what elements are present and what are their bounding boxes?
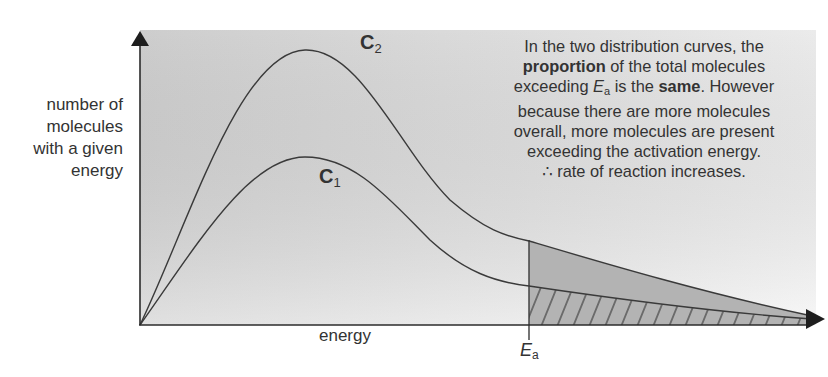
explanation-note: In the two distribution curves, the prop… [458, 36, 828, 181]
diagram: number of molecules with a given energy … [0, 0, 828, 377]
y-label-line: with a given [0, 138, 123, 160]
c2-main: C [360, 31, 374, 53]
note-line: exceeding Ea is the same. However [458, 76, 828, 101]
y-label-line: molecules [0, 116, 123, 138]
curve-label-c2: C2 [360, 31, 382, 56]
y-axis-label: number of molecules with a given energy [0, 94, 123, 182]
note-bold-proportion: proportion [523, 57, 606, 75]
note-text: of the total molecules [606, 57, 765, 75]
note-text: exceeding [514, 77, 593, 95]
y-label-line: number of [0, 94, 123, 116]
c1-sub: 1 [333, 175, 340, 190]
x-axis-label: energy [300, 326, 390, 346]
note-line: ∴ rate of reaction increases. [458, 161, 828, 181]
ea-label: Ea [520, 340, 539, 362]
note-bold-same: same [658, 77, 700, 95]
note-ea-main: E [593, 77, 604, 95]
c2-sub: 2 [374, 41, 381, 56]
note-line: because there are more molecules [458, 101, 828, 121]
note-text: . However [700, 77, 774, 95]
note-line: overall, more molecules are present [458, 121, 828, 141]
curve-label-c1: C1 [319, 165, 341, 190]
y-label-line: energy [0, 160, 123, 182]
note-line: In the two distribution curves, the [458, 36, 828, 56]
note-line: exceeding the activation energy. [458, 141, 828, 161]
note-line: proportion of the total molecules [458, 56, 828, 76]
ea-label-sub: a [532, 348, 539, 362]
c1-main: C [319, 165, 333, 187]
ea-label-main: E [520, 340, 532, 360]
note-text: is the [610, 77, 658, 95]
